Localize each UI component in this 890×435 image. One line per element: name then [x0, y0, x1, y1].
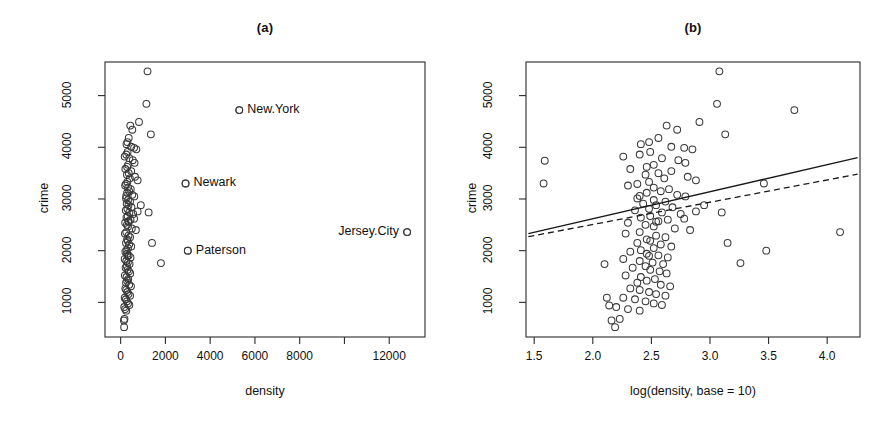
- data-point: [652, 276, 659, 283]
- data-point: [541, 157, 548, 164]
- data-point: [656, 268, 663, 275]
- data-point: [660, 261, 667, 268]
- data-point: [650, 245, 657, 252]
- data-point: [657, 241, 664, 248]
- data-point: [627, 166, 634, 173]
- data-point: [647, 266, 654, 273]
- plot-frame: [526, 62, 860, 337]
- data-point: [540, 180, 547, 187]
- regression-line-robust-fit: [528, 174, 857, 237]
- x-tick-label: 2.5: [643, 349, 660, 363]
- data-point: [650, 161, 657, 168]
- y-axis-label: crime: [465, 158, 479, 238]
- data-point: [642, 298, 649, 305]
- data-point: [718, 209, 725, 216]
- data-point: [650, 300, 657, 307]
- data-point: [603, 294, 610, 301]
- data-point: [636, 307, 643, 314]
- data-point: [636, 287, 643, 294]
- data-point: [689, 146, 696, 153]
- data-point: [653, 232, 660, 239]
- data-point: [737, 260, 744, 267]
- data-point: [646, 179, 653, 186]
- data-point: [668, 168, 675, 175]
- data-point: [693, 177, 700, 184]
- data-point: [662, 234, 669, 241]
- data-point: [642, 221, 649, 228]
- data-point: [622, 230, 629, 237]
- data-point: [632, 296, 639, 303]
- data-point: [629, 264, 636, 271]
- data-point: [622, 272, 629, 279]
- data-point: [674, 191, 681, 198]
- data-point: [653, 291, 660, 298]
- data-point: [666, 186, 673, 193]
- data-point: [657, 188, 664, 195]
- data-point: [681, 144, 688, 151]
- data-point: [667, 283, 674, 290]
- data-point: [634, 279, 641, 286]
- y-tick-label: 2000: [481, 225, 495, 275]
- data-point: [668, 143, 675, 150]
- data-point: [642, 263, 649, 270]
- data-point: [620, 294, 627, 301]
- data-point: [681, 215, 688, 222]
- figure-canvas: (a)densitycrime0200040006000800012000100…: [0, 0, 890, 435]
- data-point: [684, 173, 691, 180]
- data-point: [722, 131, 729, 138]
- x-tick-label: 3.0: [702, 349, 719, 363]
- data-point: [668, 243, 675, 250]
- data-point: [663, 122, 670, 129]
- data-point: [687, 227, 694, 234]
- data-point: [625, 306, 632, 313]
- data-point: [693, 208, 700, 215]
- data-point: [714, 100, 721, 107]
- data-point: [657, 281, 664, 288]
- data-point: [763, 247, 770, 254]
- data-point: [601, 261, 608, 268]
- y-tick-label: 1000: [481, 276, 495, 326]
- regression-line-ols-fit: [528, 158, 857, 234]
- data-point: [649, 259, 656, 266]
- data-point: [625, 182, 632, 189]
- data-point: [616, 316, 623, 323]
- data-point: [655, 135, 662, 142]
- data-point: [682, 159, 689, 166]
- scatter-plot-panel-b: [0, 0, 890, 435]
- data-point: [716, 68, 723, 75]
- data-point: [637, 141, 644, 148]
- data-point: [608, 317, 615, 324]
- data-point: [655, 252, 662, 259]
- data-point: [643, 189, 650, 196]
- data-point: [620, 153, 627, 160]
- data-point: [663, 270, 670, 277]
- data-point: [655, 170, 662, 177]
- data-point: [647, 149, 654, 156]
- data-point: [642, 171, 649, 178]
- data-point: [646, 289, 653, 296]
- data-point: [646, 139, 653, 146]
- data-point: [612, 324, 619, 331]
- data-point: [837, 229, 844, 236]
- x-tick-label: 4.0: [819, 349, 836, 363]
- data-point: [636, 258, 643, 265]
- x-tick-label: 2.0: [584, 349, 601, 363]
- y-tick-label: 3000: [481, 173, 495, 223]
- data-point: [662, 292, 669, 299]
- data-point: [625, 219, 632, 226]
- x-tick-label: 1.5: [526, 349, 543, 363]
- y-tick-label: 4000: [481, 121, 495, 171]
- data-point: [677, 211, 684, 218]
- data-point: [664, 254, 671, 261]
- x-axis-label: log(density, base = 10): [553, 384, 833, 398]
- data-point: [661, 175, 668, 182]
- data-point: [627, 248, 634, 255]
- data-point: [791, 107, 798, 114]
- data-point: [659, 302, 666, 309]
- data-point: [634, 240, 641, 247]
- data-point: [643, 164, 650, 171]
- x-tick-label: 3.5: [760, 349, 777, 363]
- data-point: [650, 184, 657, 191]
- data-point: [634, 181, 641, 188]
- data-point: [724, 240, 731, 247]
